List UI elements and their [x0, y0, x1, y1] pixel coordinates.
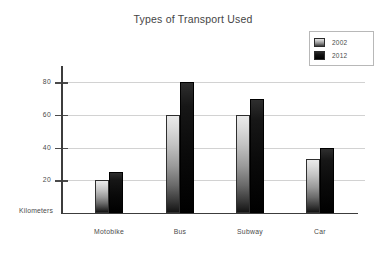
chart-plot-area: 20406080 Kilometers MotobikeBusSubwayCar: [0, 0, 386, 254]
gridline-60: [62, 115, 365, 116]
y-tick-label-60: 60: [31, 111, 51, 118]
y-tick-label-40: 40: [31, 144, 51, 151]
x-axis-label-subway: Subway: [215, 228, 285, 235]
x-axis-label-motobike: Motobike: [74, 228, 144, 235]
bar-car-2012: [320, 148, 334, 213]
y-axis-title: Kilometers: [19, 207, 53, 214]
bar-car-2002: [306, 159, 320, 213]
x-axis-label-car: Car: [285, 228, 355, 235]
bar-bus-2002: [166, 115, 180, 213]
bar-motobike-2002: [95, 180, 109, 213]
y-axis-line: [61, 66, 63, 214]
bar-subway-2012: [250, 99, 264, 213]
y-tick-label-80: 80: [31, 78, 51, 85]
bar-bus-2012: [180, 82, 194, 213]
bar-motobike-2012: [109, 172, 123, 213]
x-axis-label-bus: Bus: [145, 228, 215, 235]
bar-subway-2002: [236, 115, 250, 213]
gridline-80: [62, 82, 365, 83]
y-tick-label-20: 20: [31, 176, 51, 183]
